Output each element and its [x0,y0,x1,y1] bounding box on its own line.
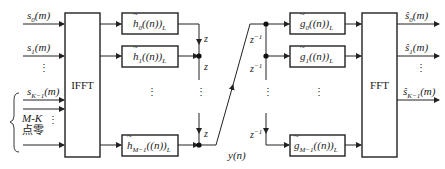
output-label-s1hat: ŝ1(m) [405,42,428,56]
output-label-s0hat: ŝ0(m) [405,10,428,24]
ifft-label: IFFT [68,80,97,91]
output-label-sK-1hat: ŝK−1(m) [403,86,435,100]
delay-z-3: z [204,129,208,139]
left-delay-ellipsis: ⋮ [196,90,202,94]
input-label-s0: s0(m) [27,10,50,24]
analysis-filter-h0: h~0((n))L [133,18,166,32]
right-delay-ellipsis: ⋮ [263,90,269,94]
fft-label: FFT [365,80,394,91]
delay-zinv-1: z−1 [250,34,262,45]
zero-pad-ellipsis: ⋮ [48,118,54,122]
input-label-s1: s1(m) [27,42,50,56]
channel-signal-yn: y(n) [228,150,246,161]
output-ellipsis: ⋮ [416,66,422,70]
zero-padding-label: M-K 点零 [22,113,44,136]
analysis-ellipsis: ⋮ [147,90,153,94]
analysis-filter-h1: h~1((n))L [133,51,166,65]
synthesis-filter-g1: g~1((n))L [300,51,333,65]
synthesis-filter-gM-1: g~M−1((n))L [294,140,338,154]
delay-z-2: z [204,62,208,72]
synthesis-ellipsis: ⋮ [314,90,320,94]
delay-zinv-2: z−1 [250,63,262,74]
synthesis-filter-g0: g~0((n))L [300,18,333,32]
delay-zinv-3: z−1 [250,129,262,140]
analysis-filter-hM-1: h~M−1((n))L [127,140,171,154]
input-label-sK-1: sK−1(m) [27,86,59,100]
delay-z-1: z [204,34,208,44]
input-ellipsis: ⋮ [39,66,45,70]
